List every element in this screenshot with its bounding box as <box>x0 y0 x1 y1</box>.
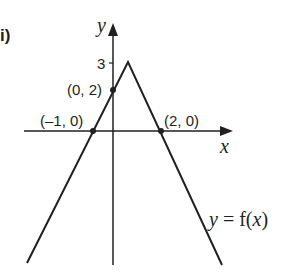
point-label-0-2: (0, 2) <box>67 81 102 98</box>
point-0-2 <box>110 87 116 93</box>
part-label: i) <box>0 26 10 45</box>
curve-f <box>27 62 222 265</box>
tick-label-3: 3 <box>97 55 105 72</box>
point-label-2-0: (2, 0) <box>164 112 199 129</box>
x-axis-label: x <box>219 135 229 157</box>
y-axis-label: y <box>95 14 106 37</box>
graph: i) y x 3 (0, 2) (–1, 0) (2, 0) y = f(x) <box>0 0 300 279</box>
point-label-neg1-0: (–1, 0) <box>40 112 83 129</box>
y-axis-arrow-icon <box>108 23 118 36</box>
curve-label: y = f(x) <box>207 208 268 231</box>
point-neg1-0 <box>90 128 96 134</box>
